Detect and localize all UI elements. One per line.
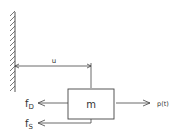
damping-force-arrow: [38, 100, 68, 106]
displacement-label: u: [52, 57, 56, 65]
damping-force-label: fD: [25, 98, 34, 111]
mass-label: m: [86, 99, 96, 110]
spring-force-label: fS: [25, 118, 34, 131]
fixed-wall: [10, 11, 15, 92]
applied-force-arrow: [116, 100, 150, 106]
sdof-diagram: u m p(t) fD fS: [0, 0, 174, 133]
displacement-dimension: [15, 63, 91, 88]
spring-force-arrow: [38, 119, 91, 126]
applied-force-label: p(t): [157, 100, 169, 108]
